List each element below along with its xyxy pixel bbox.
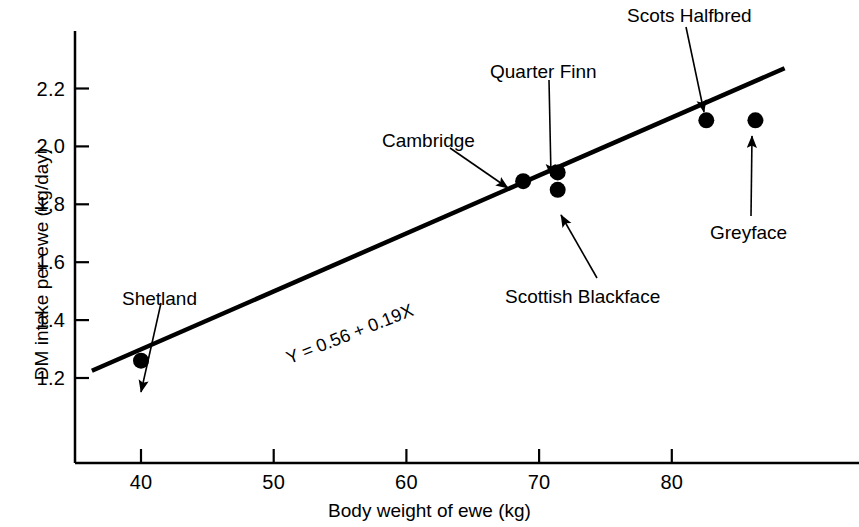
annotation-arrow [686, 27, 704, 112]
x-tick-label: 50 [262, 471, 285, 494]
scatter-plot-svg [0, 0, 859, 527]
point-label-quarter-finn: Quarter Finn [490, 61, 597, 83]
annotation-arrow [549, 80, 551, 176]
data-point-marker[interactable] [515, 173, 531, 189]
data-point-marker[interactable] [550, 164, 566, 180]
x-axis-title: Body weight of ewe (kg) [0, 500, 859, 522]
y-tick-label: 2.0 [0, 135, 65, 158]
x-tick-label: 70 [528, 471, 551, 494]
point-label-scottish-blackface: Scottish Blackface [505, 286, 660, 308]
y-tick-label: 2.2 [0, 77, 65, 100]
axis-ticks [75, 89, 672, 464]
x-tick-label: 80 [660, 471, 683, 494]
regression-line [92, 68, 785, 371]
y-tick-label: 1.8 [0, 193, 65, 216]
point-label-cambridge: Cambridge [382, 130, 475, 152]
axis-lines [75, 31, 859, 463]
y-tick-label: 1.4 [0, 309, 65, 332]
fit-line [92, 68, 785, 371]
point-label-shetland: Shetland [122, 288, 197, 310]
annotation-arrow [751, 136, 752, 216]
y-tick-label: 1.6 [0, 251, 65, 274]
x-tick-label: 40 [130, 471, 153, 494]
data-point-marker[interactable] [133, 353, 149, 369]
data-point-marker[interactable] [698, 112, 714, 128]
point-label-scots-halfbred: Scots Halfbred [627, 5, 752, 27]
annotation-arrow [561, 215, 597, 278]
data-point-marker[interactable] [747, 112, 763, 128]
chart-figure: DM intake per ewe (kg/day) Body weight o… [0, 0, 859, 527]
annotation-arrow [450, 148, 508, 188]
annotation-arrows [141, 27, 752, 392]
y-tick-label: 1.2 [0, 367, 65, 390]
point-label-greyface: Greyface [710, 222, 787, 244]
data-point-marker[interactable] [550, 182, 566, 198]
x-tick-label: 60 [395, 471, 418, 494]
